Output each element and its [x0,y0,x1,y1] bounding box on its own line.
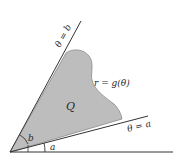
ray-upper-label: θ = b [53,22,73,48]
angle-b-label: b [28,133,34,143]
angle-a-label: a [50,142,55,152]
angle-a-arc [44,143,45,152]
curve-label: r = g(θ) [94,78,130,88]
polar-region-diagram: Q r = g(θ) θ = a θ = b b a [0,0,173,159]
region-label: Q [66,100,75,113]
